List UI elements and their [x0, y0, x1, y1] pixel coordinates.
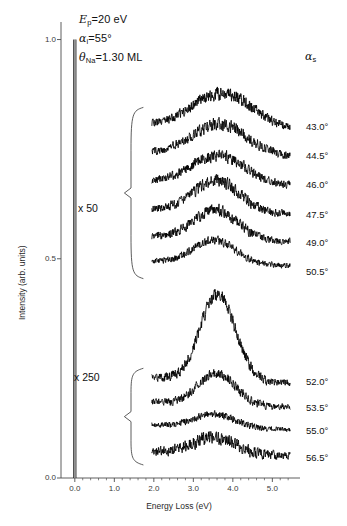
x-tick-label: 5.0	[257, 484, 287, 494]
param-symbol: α	[79, 32, 87, 45]
x-tick-label: 0.0	[60, 484, 90, 494]
spectrum-trace	[152, 431, 290, 459]
angle-label-490: 49.0°	[306, 237, 328, 249]
param-line-beam-energy: Ep=20 eV	[79, 13, 127, 26]
param-subscript: p	[87, 18, 91, 27]
angle-label-550: 55.0°	[306, 425, 328, 437]
x-tick-label: 1.0	[99, 484, 129, 494]
angle-label-475: 47.5°	[306, 209, 328, 221]
angle-label-535: 53.5°	[306, 402, 328, 414]
brace-lower-group	[124, 368, 143, 464]
spectrum-trace	[152, 289, 290, 386]
param-subscript: Na	[86, 56, 96, 65]
spectrum-trace	[152, 369, 290, 409]
alpha-subscript: s	[312, 55, 316, 64]
param-line-na-coverage: θNa=1.30 ML	[79, 51, 143, 64]
brace-upper-group	[124, 108, 143, 279]
y-tick-label: 0.0	[30, 473, 56, 483]
angle-label-460: 46.0°	[306, 179, 328, 191]
param-value: =20 eV	[91, 13, 127, 25]
angle-label-430: 43.0°	[306, 121, 328, 133]
alpha-s-column-header: αs	[305, 50, 316, 63]
x-axis-title: Energy Loss (eV)	[119, 501, 239, 511]
spectrum-trace	[152, 87, 290, 130]
spectra-traces	[152, 87, 290, 460]
y-axis-title: Intensity (arb. units)	[17, 245, 27, 320]
x-tick-label: 3.0	[178, 484, 208, 494]
angle-label-445: 44.5°	[306, 150, 328, 162]
param-symbol: E	[79, 13, 87, 26]
param-value: =55°	[88, 32, 111, 44]
scale-braces	[124, 108, 143, 465]
y-tick-label: 0.5	[30, 254, 56, 264]
scale-label-upper: x 50	[78, 202, 98, 215]
param-value: =1.30 ML	[96, 51, 143, 63]
elastic-peak	[74, 40, 76, 478]
x-tick-label: 4.0	[218, 484, 248, 494]
angle-label-565: 56.5°	[306, 452, 328, 464]
angle-label-520: 52.0°	[306, 376, 328, 388]
y-tick-label: 1.0	[30, 35, 56, 45]
param-line-incident-angle: αi=55°	[79, 32, 112, 45]
param-symbol: θ	[79, 51, 86, 64]
axes	[57, 22, 300, 482]
spectrum-trace	[152, 410, 290, 431]
scale-label-lower: x 250	[74, 371, 100, 384]
angle-label-505: 50.5°	[306, 266, 328, 278]
eels-spectra-figure: Energy Loss (eV) Intensity (arb. units) …	[0, 0, 347, 526]
x-tick-label: 2.0	[139, 484, 169, 494]
